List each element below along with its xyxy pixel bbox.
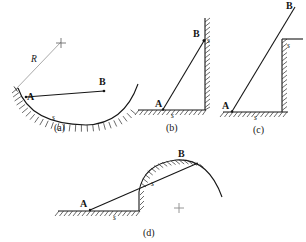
panel-b-label-s-ground: s [171, 111, 174, 120]
panel-d-label-s-ground: s [113, 213, 116, 222]
panel-c-caption: (c) [253, 124, 264, 136]
panel-a-chord-ab [26, 91, 104, 97]
figure-container: A B s R (a) [0, 0, 306, 242]
panel-b-point-b-dot [203, 39, 206, 42]
panel-c-label-s-ledge: s [287, 41, 290, 50]
panel-d: A B s s (d) [55, 148, 222, 239]
panel-b-label-s-wall: s [207, 36, 210, 45]
panel-a: A B s R (a) [12, 38, 138, 134]
panel-d-caption: (d) [143, 227, 155, 239]
panel-c-label-a: A [222, 100, 230, 111]
panel-b-wall-hatching [205, 18, 210, 110]
panel-a-label-a: A [27, 91, 35, 102]
panel-d-ground-hatching [55, 211, 140, 216]
panel-a-label-r: R [30, 54, 37, 64]
figure-svg: A B s R (a) [0, 0, 306, 242]
panel-a-radius-line [16, 42, 61, 89]
panel-a-caption: (a) [54, 122, 65, 134]
panel-a-bowl-surface [18, 84, 138, 125]
panel-d-label-a: A [80, 198, 88, 209]
panel-d-point-a-dot [89, 209, 91, 211]
panel-c-label-s-ground: s [254, 113, 257, 122]
panel-d-center-cross [174, 203, 184, 213]
panel-d-tangent-ab [90, 163, 198, 210]
panel-a-label-b: B [99, 76, 106, 87]
panel-b-label-b: B [193, 28, 200, 39]
panel-b: A B s s (b) [135, 18, 210, 134]
panel-a-center-cross [56, 38, 66, 48]
panel-d-label-b: B [178, 148, 185, 159]
panel-d-step-hatching [140, 191, 144, 210]
panel-d-label-s-arc: s [151, 179, 154, 188]
panel-b-incline-ab [163, 40, 205, 110]
panel-a-point-b-dot [103, 90, 106, 93]
panel-b-caption: (b) [166, 122, 178, 134]
panel-b-label-a: A [155, 98, 163, 109]
panel-a-label-s: s [52, 113, 55, 122]
panel-c-incline-ab [232, 7, 295, 112]
panel-c-point-a-dot [231, 110, 233, 112]
panel-c-label-b: B [286, 0, 293, 11]
panel-c: A B s s (c) [220, 0, 303, 136]
